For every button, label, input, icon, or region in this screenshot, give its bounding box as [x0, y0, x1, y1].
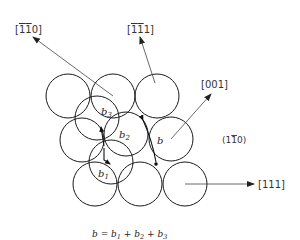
direction-labels: [110] [111] [001] [111] (110) [15, 24, 285, 190]
label-b: b [157, 135, 163, 146]
vector-end-dot [155, 163, 157, 165]
atom-row1-1 [46, 74, 90, 118]
label-plane: (110) [222, 135, 246, 145]
label-111: [111] [258, 179, 285, 190]
crystal-diagram: [110] [111] [001] [111] (110) b3 b2 b b1… [0, 0, 300, 240]
vector-b1-path [104, 148, 110, 164]
equation: b = b1 + b2 + b3 [92, 229, 167, 240]
label-m1m11: [111] [127, 24, 154, 35]
atom-row1-3 [135, 74, 179, 118]
burgers-vectors [101, 120, 157, 165]
label-m1m10: [110] [15, 24, 42, 35]
label-b2: b2 [119, 129, 130, 142]
label-b1: b1 [98, 168, 109, 181]
atom-row3-2 [118, 162, 162, 206]
label-b3: b3 [101, 106, 112, 119]
arrow-001 [171, 94, 211, 139]
arrow-m1m10 [33, 37, 113, 96]
label-001: [001] [201, 79, 228, 90]
